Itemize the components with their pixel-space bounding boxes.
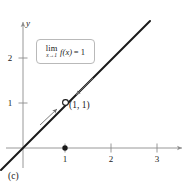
limit-figure: y 1 2 3 1 2 lim x→1 f(x) = 1 (1, 1) (c): [0, 0, 190, 190]
y-tick-label-1: 1: [5, 99, 15, 108]
x-tick-label-3: 3: [151, 155, 163, 164]
limit-annotation-box: lim x→1 f(x) = 1: [36, 39, 95, 64]
open-circle-marker: [63, 100, 69, 106]
x-tick-label-1: 1: [59, 155, 71, 164]
limit-operator-subscript: x→1: [46, 53, 57, 59]
limit-operator: lim x→1: [46, 44, 58, 59]
point-label: (1, 1): [69, 101, 90, 111]
limit-value: = 1: [74, 47, 85, 57]
approach-arrow-from-right: [76, 78, 93, 95]
y-tick-label-2: 2: [5, 54, 15, 63]
x-tick-label-2: 2: [105, 155, 117, 164]
figure-caption: (c): [8, 172, 19, 182]
limit-function: f(x): [60, 47, 72, 57]
limit-expression: lim x→1 f(x) = 1: [46, 44, 85, 59]
filled-dot-marker: [62, 145, 67, 150]
y-axis-label: y: [26, 19, 30, 28]
